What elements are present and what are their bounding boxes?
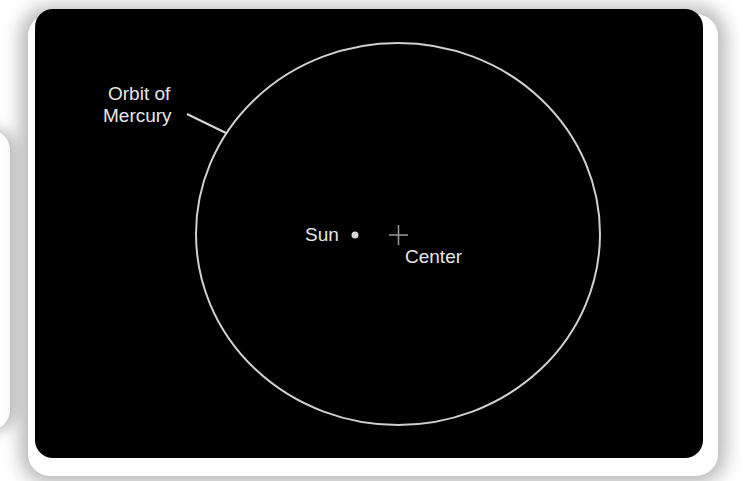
diagram-panel bbox=[35, 9, 703, 458]
orbit-label-line1: Orbit of bbox=[108, 83, 170, 105]
orbit-label-line2: Mercury bbox=[103, 105, 172, 127]
center-label: Center bbox=[405, 246, 462, 268]
sun-dot-icon bbox=[352, 232, 359, 239]
orbit-diagram bbox=[35, 9, 703, 458]
sun-label: Sun bbox=[305, 224, 339, 246]
orbit-leader-line bbox=[187, 114, 226, 133]
adjacent-panel-edge bbox=[0, 130, 10, 430]
